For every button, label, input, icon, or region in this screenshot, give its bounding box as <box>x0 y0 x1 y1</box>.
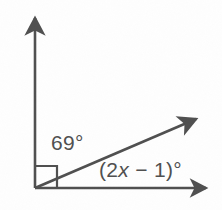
expression-suffix: − 1)° <box>129 158 182 181</box>
expression-variable: x <box>118 158 129 181</box>
angle-diagram-figure: 69° (2x − 1)° <box>0 0 222 210</box>
expression-angle-label: (2x − 1)° <box>99 159 182 180</box>
known-angle-label: 69° <box>51 132 84 153</box>
expression-prefix: (2 <box>99 158 118 181</box>
